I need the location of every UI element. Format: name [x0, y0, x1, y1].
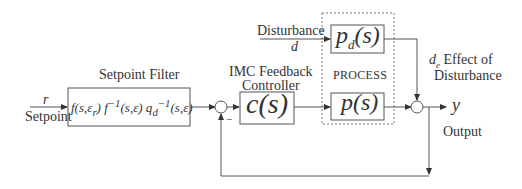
disturbance-symbol: d [291, 39, 298, 55]
process-title: PROCESS [333, 68, 387, 83]
disturbance-model-arg: (s) [355, 22, 380, 48]
plant-expression: p(s) [341, 89, 378, 116]
output-symbol: y [452, 95, 460, 116]
reference-symbol: r [43, 92, 48, 108]
reference-label: Setpoint [25, 109, 72, 125]
summing-junction-1 [215, 101, 227, 113]
disturbance-model-base: p [336, 22, 348, 48]
disturbance-model-expression: pd(s) [336, 22, 380, 53]
effect-text: Effect of [444, 52, 493, 67]
effect-label-line2: Disturbance [434, 68, 502, 84]
disturbance-label: Disturbance [257, 23, 325, 39]
output-label: Output [443, 124, 482, 140]
controller-expression: c(s) [246, 88, 288, 120]
feedback-sign: − [226, 113, 232, 125]
setpoint-filter-expression: f(s,εr) f−1(s,ε) qd−1(s,ε) [71, 97, 193, 118]
disturbance-effect-arrow [384, 39, 417, 100]
summing-junction-2 [411, 101, 423, 113]
effect-symbol: d [429, 52, 436, 67]
setpoint-filter-title: Setpoint Filter [99, 67, 180, 83]
